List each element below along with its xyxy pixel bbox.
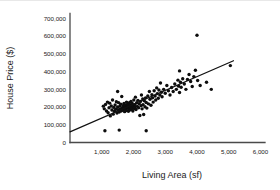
y-tick-label: 700,000 xyxy=(44,15,67,22)
x-axis-tick-labels: 1,0002,0003,0004,0005,0006,000 xyxy=(94,148,269,155)
data-point xyxy=(140,107,143,110)
data-point xyxy=(178,69,181,72)
data-point xyxy=(187,73,190,76)
data-point xyxy=(198,84,201,87)
data-point xyxy=(196,79,199,82)
data-point xyxy=(152,89,155,92)
data-point-series xyxy=(102,34,232,133)
data-point xyxy=(175,88,178,91)
data-point xyxy=(142,113,145,116)
data-point xyxy=(116,90,119,93)
chart-figure: 0100,000200,000300,000400,000500,000600,… xyxy=(0,0,280,190)
data-point xyxy=(164,92,167,95)
x-tick-label: 4,000 xyxy=(189,148,205,155)
data-point xyxy=(111,98,114,101)
data-point xyxy=(171,90,174,93)
data-point xyxy=(210,88,213,91)
x-axis-title: Living Area (sf) xyxy=(142,170,202,180)
data-point xyxy=(145,106,148,109)
data-point xyxy=(148,90,151,93)
data-point xyxy=(138,114,141,117)
data-point xyxy=(145,129,148,132)
y-tick-label: 500,000 xyxy=(44,50,67,57)
data-point xyxy=(205,81,208,84)
data-point xyxy=(118,128,121,131)
data-point xyxy=(149,104,152,107)
data-point xyxy=(181,77,184,80)
x-tick-label: 6,000 xyxy=(253,148,269,155)
data-point xyxy=(229,64,232,67)
x-tick-label: 5,000 xyxy=(221,148,237,155)
data-point xyxy=(168,93,171,96)
y-tick-label: 0 xyxy=(63,139,67,146)
y-axis-title: House Price ($) xyxy=(5,47,15,110)
y-axis-tick-labels: 0100,000200,000300,000400,000500,000600,… xyxy=(44,15,67,146)
data-point xyxy=(194,69,197,72)
y-tick-label: 400,000 xyxy=(44,68,67,75)
data-point xyxy=(157,97,160,100)
y-tick-label: 200,000 xyxy=(44,103,67,110)
data-point xyxy=(160,95,163,98)
data-point xyxy=(179,86,182,89)
data-point xyxy=(184,88,187,91)
data-point xyxy=(178,91,181,94)
scatter-plot: 0100,000200,000300,000400,000500,000600,… xyxy=(0,1,280,190)
x-tick-label: 1,000 xyxy=(94,148,110,155)
x-tick-label: 3,000 xyxy=(158,148,174,155)
regression-trendline xyxy=(70,61,234,132)
data-point xyxy=(134,95,137,98)
data-point xyxy=(191,85,194,88)
data-point xyxy=(120,95,123,98)
data-point xyxy=(140,93,143,96)
y-tick-label: 600,000 xyxy=(44,32,67,39)
data-point xyxy=(165,84,168,87)
plot-axes xyxy=(70,14,265,143)
y-tick-label: 100,000 xyxy=(44,121,67,128)
data-point xyxy=(195,34,198,37)
data-point xyxy=(106,111,109,114)
y-tick-label: 300,000 xyxy=(44,86,67,93)
data-point xyxy=(103,129,106,132)
data-point xyxy=(159,81,162,84)
x-tick-label: 2,000 xyxy=(126,148,142,155)
